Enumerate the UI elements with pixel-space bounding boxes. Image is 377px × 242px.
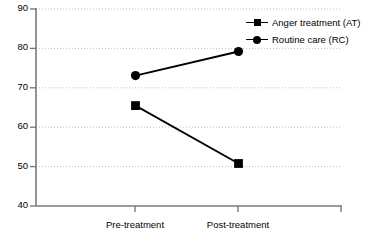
y-tick-label-80: 80 — [2, 42, 28, 52]
series-routine-care — [131, 47, 243, 80]
x-axis-ticks — [135, 206, 341, 212]
data-point-at-post — [234, 159, 243, 168]
legend-item-routine-care: Routine care (RC) — [246, 31, 374, 48]
y-tick-label-60: 60 — [2, 121, 28, 131]
legend-label-anger-treatment: Anger treatment (AT) — [268, 17, 361, 28]
chart-legend: Anger treatment (AT) Routine care (RC) — [246, 14, 374, 48]
y-tick-label-40: 40 — [2, 200, 28, 210]
data-point-at-pre — [131, 101, 140, 110]
data-point-rc-post — [234, 47, 243, 56]
y-tick-label-70: 70 — [2, 82, 28, 92]
y-tick-label-50: 50 — [2, 161, 28, 171]
line-chart: 90 80 70 60 50 40 Pre-treatment Post-tre… — [0, 0, 377, 242]
x-tick-label-post-treatment: Post-treatment — [188, 220, 288, 230]
circle-marker-icon — [246, 34, 268, 45]
square-marker-icon — [246, 17, 268, 28]
legend-item-anger-treatment: Anger treatment (AT) — [246, 14, 374, 31]
x-tick-label-pre-treatment: Pre-treatment — [85, 220, 185, 230]
y-axis-ticks — [30, 9, 36, 206]
series-anger-treatment — [131, 101, 243, 168]
legend-label-routine-care: Routine care (RC) — [268, 34, 349, 45]
data-point-rc-pre — [131, 71, 140, 80]
y-tick-label-90: 90 — [2, 3, 28, 13]
